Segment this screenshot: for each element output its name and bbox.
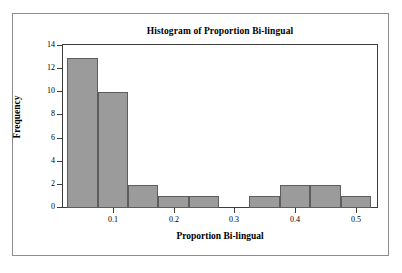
histogram-bar — [67, 58, 97, 208]
histogram-bar — [341, 196, 371, 208]
x-axis-tick-mark — [295, 208, 296, 213]
x-axis-tick-label: 0.5 — [341, 215, 371, 224]
y-axis-tick-label: 12 — [37, 64, 55, 72]
histogram-bar — [158, 196, 188, 208]
y-axis-tick-mark — [57, 184, 62, 185]
x-axis-tick-mark — [174, 208, 175, 213]
y-axis-tick: 6 — [0, 134, 55, 142]
y-axis-tick-label: 8 — [37, 110, 55, 118]
y-axis-tick: 14 — [0, 41, 55, 49]
x-axis-tick-label: 0.1 — [98, 215, 128, 224]
histogram-bar — [310, 185, 340, 208]
bars-layer — [63, 45, 377, 208]
y-axis-tick-mark — [57, 45, 62, 46]
y-axis-tick: 8 — [0, 110, 55, 118]
x-axis-tick-mark — [234, 208, 235, 213]
x-axis-tick-label: 0.2 — [159, 215, 189, 224]
y-axis-tick-mark — [57, 207, 62, 208]
x-axis-tick-mark — [113, 208, 114, 213]
chart-title: Histogram of Proportion Bi-lingual — [62, 26, 378, 36]
histogram-bar — [189, 196, 219, 208]
y-axis-tick-label: 0 — [37, 203, 55, 211]
x-axis-tick-mark — [356, 208, 357, 213]
x-axis-tick-label: 0.4 — [280, 215, 310, 224]
histogram-bar — [280, 185, 310, 208]
y-axis-tick-label: 2 — [37, 180, 55, 188]
histogram-figure: Histogram of Proportion Bi-lingual 02468… — [0, 0, 402, 273]
y-axis-tick-label: 4 — [37, 157, 55, 165]
y-axis-tick-mark — [57, 68, 62, 69]
x-axis-tick-label: 0.3 — [219, 215, 249, 224]
histogram-bar — [98, 92, 128, 208]
histogram-bar — [249, 196, 279, 208]
y-axis-tick: 2 — [0, 180, 55, 188]
y-axis-tick: 10 — [0, 87, 55, 95]
y-axis-title: Frequency — [12, 67, 22, 167]
x-axis-title: Proportion Bi-lingual — [62, 231, 378, 241]
y-axis-tick: 12 — [0, 64, 55, 72]
histogram-bar — [128, 185, 158, 208]
y-axis-tick-mark — [57, 91, 62, 92]
y-axis-tick-mark — [57, 161, 62, 162]
y-axis-tick-label: 14 — [37, 41, 55, 49]
y-axis-tick-label: 6 — [37, 134, 55, 142]
y-axis-tick-mark — [57, 138, 62, 139]
y-axis-tick-label: 10 — [37, 87, 55, 95]
y-axis-tick-mark — [57, 114, 62, 115]
y-axis-tick: 4 — [0, 157, 55, 165]
y-axis-tick: 0 — [0, 203, 55, 211]
